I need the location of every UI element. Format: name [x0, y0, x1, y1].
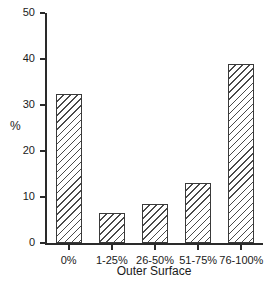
- x-axis-tick: [240, 245, 242, 250]
- y-axis-tick: [40, 58, 45, 60]
- y-axis-label: %: [10, 119, 21, 133]
- y-axis-tick: [40, 242, 45, 244]
- bar: [99, 213, 125, 243]
- x-axis-label: Outer Surface: [45, 264, 263, 278]
- bar: [56, 94, 82, 244]
- x-axis-tick: [197, 245, 199, 250]
- y-axis-tick: [40, 150, 45, 152]
- y-tick-label: 40: [7, 52, 35, 65]
- y-tick-label: 50: [7, 6, 35, 19]
- bar: [228, 64, 254, 243]
- bar: [185, 183, 211, 243]
- x-axis-tick: [154, 245, 156, 250]
- bar-chart: % 010203040500%1-25%26-50%51-75%76-100% …: [0, 0, 277, 292]
- y-axis-tick: [40, 196, 45, 198]
- plot-area: 010203040500%1-25%26-50%51-75%76-100%: [45, 13, 263, 245]
- x-axis-tick: [68, 245, 70, 250]
- x-axis-tick: [111, 245, 113, 250]
- y-tick-label: 0: [7, 236, 35, 249]
- y-tick-label: 10: [7, 190, 35, 203]
- bar: [142, 204, 168, 243]
- y-axis-tick: [40, 12, 45, 14]
- y-tick-label: 30: [7, 98, 35, 111]
- y-tick-label: 20: [7, 144, 35, 157]
- y-axis-tick: [40, 104, 45, 106]
